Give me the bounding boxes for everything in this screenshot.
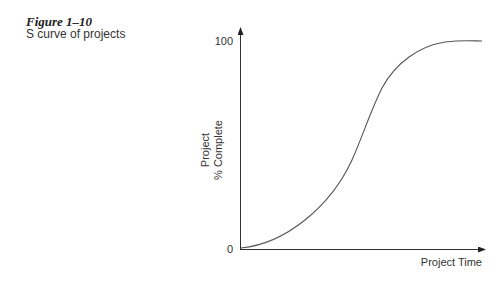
- s-curve-chart: 100 0 Project % Complete Project Time: [0, 0, 502, 288]
- y-axis-label-line1: Project: [199, 133, 211, 167]
- x-axis-label: Project Time: [421, 256, 482, 268]
- y-tick-0: 0: [227, 243, 233, 255]
- y-tick-100: 100: [215, 35, 233, 47]
- s-curve-line: [241, 41, 482, 248]
- y-axis-label-line2: % Complete: [212, 120, 224, 180]
